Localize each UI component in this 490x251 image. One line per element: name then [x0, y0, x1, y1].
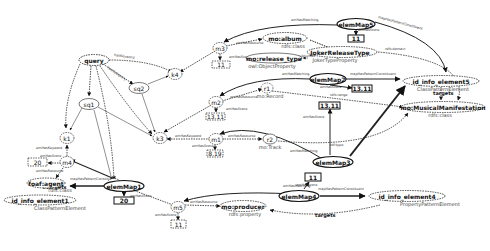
edge-elemMap3-info5 [350, 86, 405, 156]
node-info-element-5[interactable]: id_info_element5 ClassPatternElement [403, 76, 479, 93]
node-label: r2 [267, 136, 273, 143]
node-m1[interactable]: m1 [209, 134, 223, 145]
node-label: elemMap4 [282, 193, 317, 201]
node-label: mo:producer [221, 203, 264, 211]
edge-m5-producer [185, 205, 220, 206]
edge-label-emHasScore-m4: emHasScore [40, 154, 61, 158]
edge-label-hasKeyword: hasKeyword [114, 53, 135, 60]
edge-query-sq1 [89, 66, 91, 96]
node-elemMap4[interactable]: elemMap4 [279, 191, 319, 202]
node-sq2[interactable]: sq2 [129, 83, 149, 94]
node-label: m1 [211, 136, 221, 143]
node-label: m3 [215, 45, 225, 52]
node-mo-release-type[interactable]: mo:release_type owl:ObjectProperty [246, 53, 302, 70]
edge-label-emHasScore-m5: emHasScore [155, 213, 176, 217]
svg-text:13.11: 13.11 [320, 102, 339, 109]
node-type: ClassPatternElement [417, 86, 469, 92]
edge-query-k1 [66, 64, 80, 128]
edge-sq2-k3 [142, 94, 155, 132]
edge-m2-k3 [164, 104, 213, 132]
edge-labels: hasKeyword hasSubquery emHasMatching map… [36, 15, 454, 219]
node-m5[interactable]: m5 [171, 202, 185, 213]
node-label: mo:album [268, 35, 302, 42]
edge-label-emHasKeyword-m4: emHasKeyword [36, 146, 62, 150]
svg-text:13.11: 13.11 [207, 113, 224, 120]
edge-label-emHasScore-elemMap3: emHasScore [303, 115, 324, 119]
edge-m3-k4 [180, 51, 215, 72]
node-mo-musical-manifestation[interactable]: mo:MusicalManifestation rdfs:class [400, 102, 485, 119]
node-type: rdfs:property [229, 211, 262, 218]
svg-text:8.19: 8.19 [208, 150, 222, 157]
score-m1: 8.19 [207, 150, 223, 157]
edge-label-rdfsRange: rdfs:range [330, 93, 347, 97]
node-m4[interactable]: m4 [60, 157, 74, 168]
edge-label-emHasScore-m1: emHasScore [192, 144, 213, 148]
score-elemMap1: 20 [114, 197, 134, 204]
node-elemMap2[interactable]: elemMap2 [310, 74, 346, 85]
node-info-element-1[interactable]: id_info_element1 ClassPatternElement [4, 195, 86, 211]
nodes: query sq1 sq2 k1 k2 k3 k4 m1 [4, 19, 486, 229]
node-elemMap1[interactable]: elemMap1 [104, 181, 144, 192]
node-type: ClassPatternElement [34, 205, 86, 211]
edge-label-emHasResource-m4: emHasResource [36, 169, 63, 173]
node-info-element-4[interactable]: id_info_element4 PropertyPatternElement [369, 191, 460, 209]
node-type: mo:Record [257, 93, 284, 99]
score-m3: 11 [212, 61, 230, 68]
score-elemMap3: 13.11 [319, 102, 340, 109]
node-query[interactable]: query [79, 55, 109, 66]
edge-label-emHasResource-m2: emHasResource [230, 95, 257, 99]
edge-label-emHasMatching-2: emHasMatching [282, 72, 309, 76]
svg-text:11: 11 [352, 35, 360, 42]
svg-text:20: 20 [34, 159, 42, 166]
node-label: k3 [156, 135, 163, 142]
score-elemMap4: 11 [305, 173, 321, 181]
node-label: elemMap1 [107, 183, 142, 191]
edge-label-mapHasPatternConstituent-2: mapHasPatternConstituent [350, 72, 396, 76]
edge-label-mapHasPatternConstituent-5: mapHasPatternConstituent [378, 15, 424, 31]
node-label: query [84, 57, 104, 65]
score-elemMap2: 13.11 [352, 85, 372, 92]
node-label: mo:release_type [246, 55, 302, 63]
edge-label-emHasScore-elemMap4: emHasScore [296, 183, 317, 187]
edge-query-k2 [96, 66, 114, 180]
node-mo-album[interactable]: mo:album rdfs:class [263, 33, 307, 50]
svg-text:11: 11 [217, 61, 225, 68]
edge-label-emHasScore-m2: emHasScore [226, 107, 247, 111]
node-joker-release-type[interactable]: JokerReleaseType JokerTypeProperty [307, 47, 377, 65]
node-m2[interactable]: m2 [209, 97, 223, 108]
svg-text:11: 11 [175, 221, 183, 228]
node-type: owl:ObjectProperty [248, 63, 296, 70]
node-k1[interactable]: k1 [60, 133, 74, 144]
node-label: elemMap5 [339, 21, 374, 29]
node-label: k1 [63, 135, 70, 142]
node-label: elemMap2 [311, 76, 346, 84]
node-label: m4 [62, 159, 72, 166]
edge-label-emHasMatching-3: emHasMatching [290, 149, 317, 153]
svg-text:20: 20 [120, 197, 128, 204]
node-m3[interactable]: m3 [213, 43, 227, 54]
svg-text:13.11: 13.11 [353, 85, 372, 92]
node-mo-producer[interactable]: mo:producer rdfs:property [220, 201, 266, 219]
node-r1[interactable]: r1 mo:Record [257, 83, 284, 99]
edge-label-mapHasPatternConstituent-4: mapHasPatternConstituent [318, 187, 364, 191]
node-type: rdfs:class [48, 187, 72, 193]
node-k3[interactable]: k3 [153, 133, 167, 144]
edge-label-emHasResource-m5: emHasResource [190, 200, 217, 204]
node-elemMap3[interactable]: elemMap3 [313, 157, 353, 168]
node-sq1[interactable]: sq1 [79, 99, 99, 110]
node-k4[interactable]: k4 [168, 69, 182, 80]
edge-label-rdfsDomain: rdfs:domain [385, 47, 405, 51]
edge-label-emHasScore-elemMap2: emHasScore [320, 85, 341, 89]
edge-label-targets-4: targets [315, 212, 336, 219]
node-label: id_info_element1 [11, 197, 68, 205]
edge-sq1-k3 [98, 107, 152, 136]
node-type: PropertyPatternElement [400, 201, 460, 208]
edges [44, 22, 459, 220]
node-label: k4 [171, 71, 178, 78]
node-r2[interactable]: r2 mo:Track [259, 134, 282, 150]
node-label: JokerReleaseType [309, 49, 369, 57]
node-type: JokerTypeProperty [311, 57, 357, 64]
edge-label-rdfType: rdf:type [330, 143, 343, 147]
node-elemMap5[interactable]: elemMap5 [337, 19, 375, 30]
edge-label-emHasResource-m3: emHasResource [236, 41, 263, 45]
